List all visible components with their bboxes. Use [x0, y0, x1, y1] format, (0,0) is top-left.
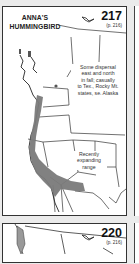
dispersal-note: Some dispersal east and north in fall; c… [71, 64, 125, 96]
bird-silhouette-icon [81, 233, 95, 241]
bird-silhouette-icon [81, 15, 95, 23]
range-map-panel-217: ANNA'S HUMMINGBIRD 217 (p. 216) Some dis… [2, 6, 127, 216]
adjacent-panel-edge [134, 6, 139, 216]
map-number: 220 [101, 226, 122, 240]
adjacent-panel-edge [134, 223, 139, 263]
note-line: to Tex., Rocky Mt. [71, 83, 125, 89]
range-area [29, 95, 85, 197]
title-line-2: HUMMINGBIRD [7, 23, 63, 32]
title-line-1: ANNA'S [7, 14, 63, 23]
range-map-panel-220: 220 (p. 216) [2, 223, 127, 263]
map-number: 217 [101, 9, 122, 23]
page-reference: (p. 216) [106, 240, 122, 245]
note-line: states, se. Alaska [71, 90, 125, 96]
species-title: ANNA'S HUMMINGBIRD [7, 14, 63, 31]
note-line: range [71, 164, 107, 170]
expanding-range-note: Recently expanding range [71, 151, 107, 170]
page-reference: (p. 216) [106, 23, 122, 28]
range-map [3, 7, 128, 217]
